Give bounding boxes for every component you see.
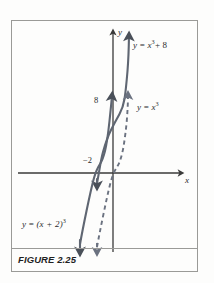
caption-divider xyxy=(12,248,197,249)
curve-label-lhs: y xyxy=(22,219,26,229)
tick-label-8: 8 xyxy=(94,95,98,105)
curve-label-op: = xyxy=(144,102,149,112)
curve-label-op: = xyxy=(140,40,145,50)
curve-label-exponent: 3 xyxy=(156,100,159,107)
curve-label-x-plus-2-cubed: y = (x + 2)3 xyxy=(22,217,66,229)
curve-label-x-cubed: y = x3 xyxy=(137,100,159,112)
x-axis-label: x xyxy=(185,175,189,185)
y-axis-label: y xyxy=(118,27,122,37)
plot-canvas xyxy=(0,0,214,283)
curve-label-op: = xyxy=(29,219,34,229)
tick-label-neg2: −2 xyxy=(83,155,92,165)
figure-container: y x 8 −2 y = x3+ 8 y = x3 y = (x + 2)3 F… xyxy=(0,0,214,283)
curve-label-tail: + 8 xyxy=(155,40,167,50)
curve-label-exponent: 3 xyxy=(63,217,66,224)
curve-label-lhs: y xyxy=(137,102,141,112)
curve-label-lhs: y xyxy=(133,40,137,50)
curve-label-base: (x + 2) xyxy=(36,219,62,229)
curve-label-x-cubed-plus-8: y = x3+ 8 xyxy=(133,38,167,50)
figure-caption: FIGURE 2.25 xyxy=(18,254,76,265)
curve-x-plus-2-cubed xyxy=(80,96,112,244)
